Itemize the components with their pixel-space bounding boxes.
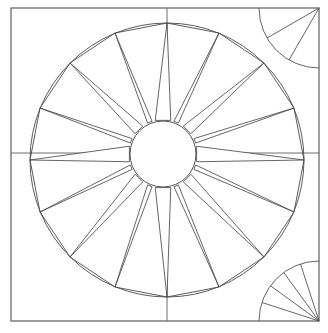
- drawing-canvas: [0, 0, 328, 333]
- compass-rose-illustration: [0, 0, 328, 333]
- compass-center-hub: [130, 121, 196, 187]
